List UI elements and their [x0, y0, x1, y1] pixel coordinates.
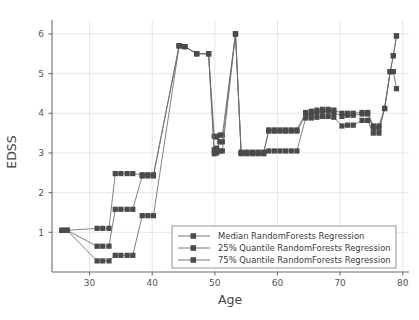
data-point-marker: [130, 207, 135, 212]
data-point-marker: [145, 213, 150, 218]
data-point-marker: [331, 115, 336, 120]
data-point-marker: [294, 127, 299, 132]
data-point-marker: [94, 258, 99, 263]
data-point-marker: [125, 171, 130, 176]
data-point-marker: [64, 228, 69, 233]
page-bleed-through-text: [0, 0, 419, 12]
data-point-marker: [309, 115, 314, 120]
data-point-marker: [125, 207, 130, 212]
data-point-marker: [140, 173, 145, 178]
data-point-marker: [331, 107, 336, 112]
data-point-marker: [233, 31, 238, 36]
data-point-marker: [345, 111, 350, 116]
data-point-marker: [394, 33, 399, 38]
y-tick-label: 3: [38, 148, 44, 158]
data-point-marker: [266, 148, 271, 153]
data-point-marker: [130, 253, 135, 258]
y-tick-label: 1: [38, 228, 44, 238]
data-point-marker: [294, 148, 299, 153]
data-point-marker: [382, 106, 387, 111]
data-point-marker: [351, 111, 356, 116]
y-tick-label: 2: [38, 188, 44, 198]
data-point-marker: [314, 115, 319, 120]
data-point-marker: [365, 110, 370, 115]
data-point-marker: [359, 118, 364, 123]
data-point-marker: [391, 69, 396, 74]
data-point-marker: [220, 148, 225, 153]
data-point-marker: [94, 226, 99, 231]
data-point-marker: [100, 258, 105, 263]
data-point-marker: [255, 150, 260, 155]
data-point-marker: [289, 127, 294, 132]
data-point-marker: [309, 109, 314, 114]
data-point-marker: [206, 51, 211, 56]
data-point-marker: [113, 171, 118, 176]
data-point-marker: [326, 114, 331, 119]
data-point-marker: [359, 110, 364, 115]
data-point-marker: [182, 44, 187, 49]
data-point-marker: [261, 150, 266, 155]
data-point-marker: [376, 131, 381, 136]
data-point-marker: [113, 207, 118, 212]
data-point-marker: [320, 114, 325, 119]
data-point-marker: [94, 244, 99, 249]
x-axis-title: Age: [218, 292, 242, 307]
legend-label: 25% Quantile RandomForests Regression: [218, 243, 391, 253]
data-point-marker: [339, 111, 344, 116]
data-point-marker: [314, 107, 319, 112]
data-point-marker: [345, 123, 350, 128]
data-point-marker: [100, 226, 105, 231]
bleed-text: [0, 0, 3, 8]
data-point-marker: [266, 127, 271, 132]
data-point-marker: [151, 213, 156, 218]
data-point-marker: [283, 127, 288, 132]
legend-label: 75% Quantile RandomForests Regression: [218, 255, 391, 265]
data-point-marker: [272, 127, 277, 132]
legend-sample-marker: [191, 245, 197, 251]
data-point-marker: [303, 110, 308, 115]
y-tick-label: 4: [38, 108, 44, 118]
data-point-marker: [244, 150, 249, 155]
data-point-marker: [283, 148, 288, 153]
data-point-marker: [371, 131, 376, 136]
data-point-marker: [194, 51, 199, 56]
legend-sample-marker: [191, 233, 197, 239]
data-point-marker: [130, 171, 135, 176]
data-point-marker: [320, 107, 325, 112]
data-point-marker: [118, 253, 123, 258]
y-axis-title: EDSS: [4, 135, 19, 168]
x-tick-label: 80: [397, 278, 409, 288]
data-point-marker: [106, 226, 111, 231]
data-point-marker: [365, 118, 370, 123]
data-point-marker: [371, 123, 376, 128]
data-point-marker: [339, 123, 344, 128]
data-point-marker: [351, 123, 356, 128]
legend-label: Median RandomForests Regression: [218, 231, 364, 241]
data-point-marker: [214, 146, 219, 151]
data-point-marker: [106, 258, 111, 263]
chart-legend: Median RandomForests Regression25% Quant…: [172, 226, 396, 268]
y-tick-label: 5: [38, 69, 44, 79]
data-point-marker: [277, 148, 282, 153]
data-point-marker: [239, 150, 244, 155]
x-tick-label: 40: [146, 278, 158, 288]
legend-sample-marker: [191, 257, 197, 263]
data-point-marker: [220, 139, 225, 144]
data-point-marker: [177, 43, 182, 48]
data-point-marker: [151, 173, 156, 178]
chart-figure: 123456 304050607080 Age EDSS Median Rand…: [0, 0, 419, 320]
data-point-marker: [140, 213, 145, 218]
edss-vs-age-line-chart: 123456 304050607080 Age EDSS Median Rand…: [0, 0, 419, 320]
data-point-marker: [118, 207, 123, 212]
x-tick-label: 70: [334, 278, 346, 288]
data-point-marker: [106, 244, 111, 249]
x-tick-label: 50: [209, 278, 221, 288]
data-point-marker: [118, 171, 123, 176]
x-tick-label: 30: [84, 278, 96, 288]
data-point-marker: [113, 253, 118, 258]
data-point-marker: [394, 86, 399, 91]
data-point-marker: [376, 123, 381, 128]
data-point-marker: [125, 253, 130, 258]
y-tick-label: 6: [38, 29, 44, 39]
data-point-marker: [326, 107, 331, 112]
